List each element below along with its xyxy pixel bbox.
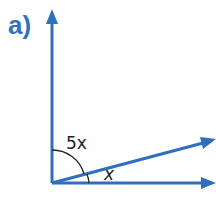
horizontal-arrowhead-icon bbox=[201, 177, 216, 189]
arc-5x bbox=[52, 150, 84, 174]
slanted-arrowhead-icon bbox=[200, 137, 216, 149]
vertical-arrowhead-icon bbox=[46, 9, 58, 24]
angle-label-x: x bbox=[104, 164, 114, 184]
part-label: a) bbox=[8, 10, 31, 41]
angle-label-5x: 5x bbox=[66, 133, 87, 153]
